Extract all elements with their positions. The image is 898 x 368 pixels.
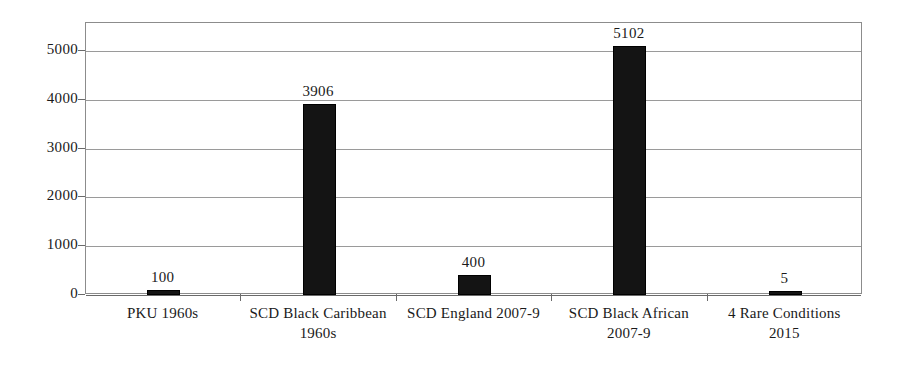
y-tick-mark-4000: [78, 99, 85, 100]
bar-value-label: 100: [123, 269, 203, 285]
bar: [147, 290, 180, 295]
x-category-label: SCD Black Caribbean1960s: [240, 303, 395, 343]
x-category-label: SCD England 2007-9: [396, 303, 551, 323]
y-tick-label-5000: 5000: [8, 42, 78, 57]
category-label-line2: 2015: [707, 323, 862, 343]
x-category-label: 4 Rare Conditions2015: [707, 303, 862, 343]
category-label-line2: 2007-9: [551, 323, 706, 343]
y-tick-label-4000: 4000: [8, 91, 78, 106]
x-tick-mark: [551, 294, 552, 301]
y-tick-mark-3000: [78, 148, 85, 149]
y-tick-mark-0: [78, 294, 85, 295]
bar-value-label: 5: [744, 270, 824, 286]
x-tick-mark: [240, 294, 241, 301]
bar: [769, 291, 802, 295]
y-tick-label-0: 0: [8, 286, 78, 301]
y-tick-label-3000: 3000: [8, 140, 78, 155]
y-tick-mark-5000: [78, 50, 85, 51]
bar-chart: 010002000300040005000 100390640051025 PK…: [0, 0, 898, 368]
x-tick-mark: [707, 294, 708, 301]
y-tick-label-1000: 1000: [8, 237, 78, 252]
category-label-line1: SCD England 2007-9: [407, 305, 540, 321]
plot-area: [85, 22, 862, 294]
bar: [613, 46, 646, 295]
gridline-2000: [86, 197, 861, 198]
category-label-line2: 1960s: [240, 323, 395, 343]
bar-value-label: 3906: [278, 83, 358, 99]
bar: [458, 275, 491, 295]
category-label-line1: SCD Black Caribbean: [250, 305, 387, 321]
category-label-line1: 4 Rare Conditions: [728, 305, 841, 321]
x-tick-mark: [396, 294, 397, 301]
y-tick-mark-1000: [78, 245, 85, 246]
bar-value-label: 5102: [589, 25, 669, 41]
gridline-3000: [86, 149, 861, 150]
category-label-line1: PKU 1960s: [127, 305, 198, 321]
bar: [303, 104, 336, 295]
gridline-1000: [86, 246, 861, 247]
x-category-label: PKU 1960s: [85, 303, 240, 323]
y-axis-labels: 010002000300040005000: [0, 0, 78, 368]
bar-value-label: 400: [434, 254, 514, 270]
gridline-4000: [86, 100, 861, 101]
y-tick-label-2000: 2000: [8, 188, 78, 203]
x-category-label: SCD Black African2007-9: [551, 303, 706, 343]
gridline-5000: [86, 51, 861, 52]
category-label-line1: SCD Black African: [569, 305, 689, 321]
y-tick-mark-2000: [78, 196, 85, 197]
gridline-0: [86, 295, 861, 296]
